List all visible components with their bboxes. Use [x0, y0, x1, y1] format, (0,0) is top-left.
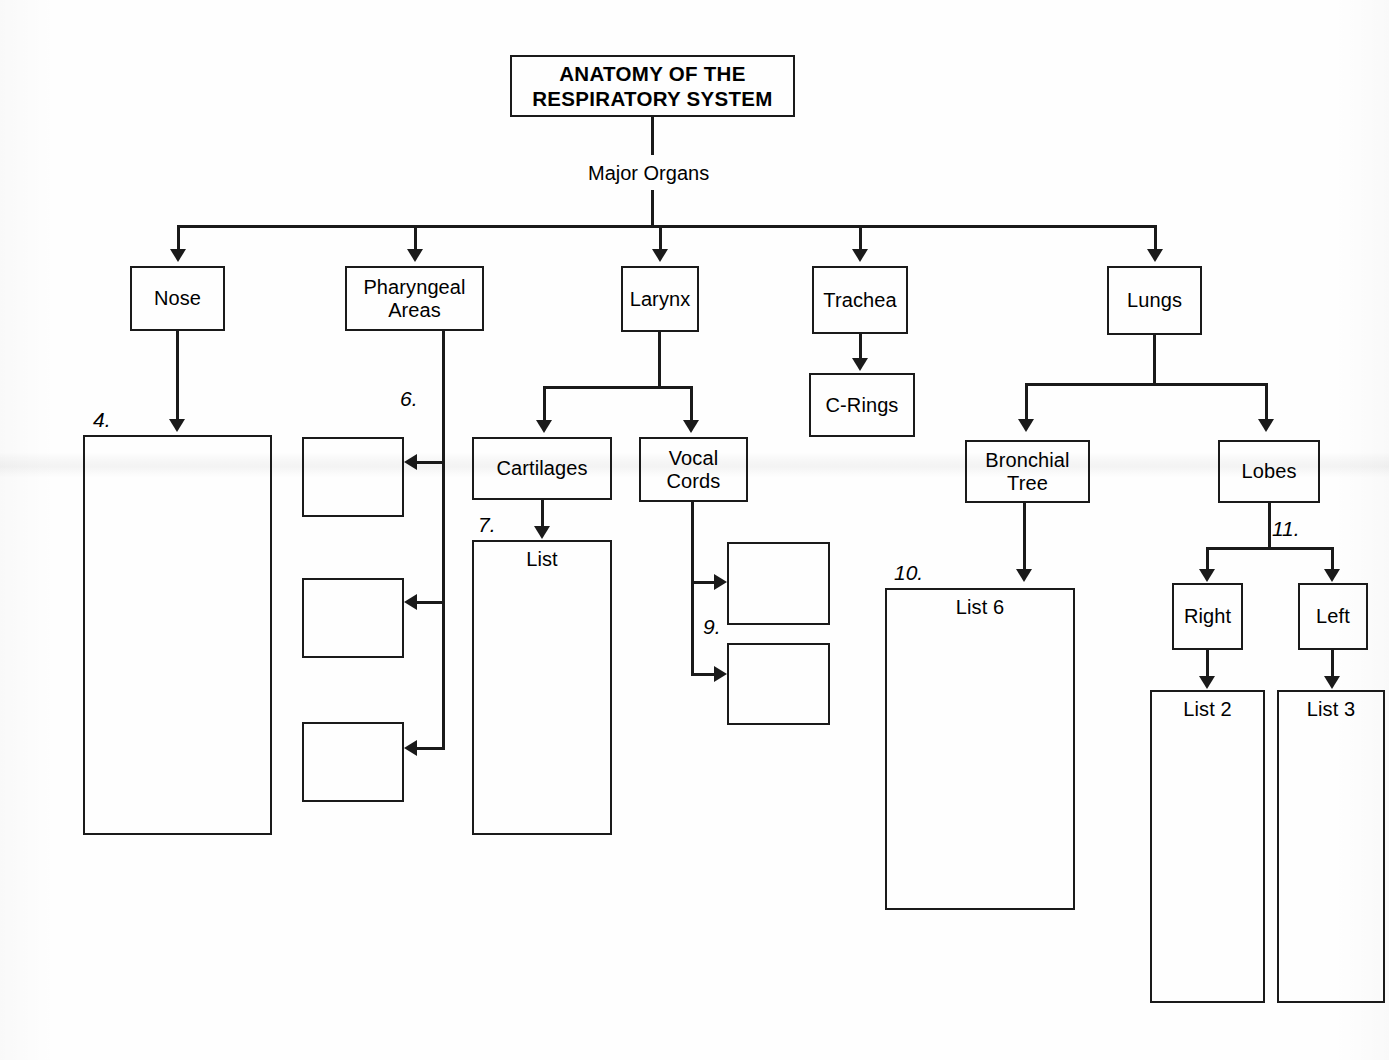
node-vocal-cords: Vocal Cords [639, 437, 748, 502]
answer-box-vocal-cord-2[interactable] [727, 643, 830, 725]
lobes-split-bus [1206, 547, 1334, 550]
arrow-to-larynx [652, 249, 668, 262]
node-lobes: Lobes [1218, 440, 1320, 503]
answer-box-left-lobe-list[interactable]: List 3 [1277, 690, 1385, 1003]
node-lungs: Lungs [1107, 266, 1202, 335]
drop-to-bronchial-tree [1025, 383, 1028, 421]
drop-to-lungs [1154, 225, 1157, 251]
callout-10: 10. [894, 561, 923, 585]
callout-4: 4. [93, 408, 111, 432]
drop-to-larynx [659, 225, 662, 251]
arrow-left-lobe-to-list [1324, 676, 1340, 689]
node-left-lobe: Left [1298, 583, 1368, 650]
node-cartilages-label: Cartilages [496, 457, 587, 479]
pharyngeal-vertical-bus [442, 331, 445, 750]
arrow-to-cartilages [536, 420, 552, 433]
drop-to-lobes [1265, 383, 1268, 421]
answer-box-bronchial-list[interactable]: List 6 [885, 588, 1075, 910]
node-larynx-label: Larynx [630, 288, 691, 310]
drop-to-right-lobe [1206, 547, 1209, 571]
answer-box-pharyngeal-1[interactable] [302, 437, 404, 517]
connector-bronchial-tree-to-list [1023, 503, 1026, 571]
answer-box-right-lobe-list[interactable]: List 2 [1150, 690, 1265, 1003]
connector-left-lobe-to-list [1331, 650, 1334, 678]
node-left-lobe-label: Left [1316, 605, 1350, 627]
title-box: ANATOMY OF THE RESPIRATORY SYSTEM [510, 55, 795, 117]
arrow-to-nose [170, 249, 186, 262]
node-cartilages: Cartilages [472, 437, 612, 500]
node-bronchial-tree-label-2: Tree [1007, 472, 1048, 494]
answer-box-pharyngeal-2[interactable] [302, 578, 404, 658]
arrow-trachea-to-c-rings [852, 358, 868, 371]
node-bronchial-tree: Bronchial Tree [965, 440, 1090, 503]
node-vocal-cords-label-1: Vocal [669, 447, 718, 469]
arrow-to-lungs [1147, 249, 1163, 262]
arrow-pharyngeal-to-blank-2 [404, 594, 417, 610]
answer-box-bronchial-list-label: List 6 [956, 596, 1004, 618]
callout-9: 9. [703, 615, 721, 639]
node-trachea-label: Trachea [823, 289, 896, 311]
lungs-split-bus [1025, 383, 1268, 386]
arrow-to-trachea [852, 249, 868, 262]
answer-box-cartilages-list-label: List [526, 548, 558, 570]
connector-major-organs-to-bus [651, 190, 654, 227]
arrow-to-bronchial-tree [1018, 419, 1034, 432]
connector-pharyngeal-to-blank-2 [416, 601, 443, 604]
answer-box-vocal-cord-1[interactable] [727, 542, 830, 625]
title-line-1: ANATOMY OF THE [559, 62, 745, 85]
callout-7: 7. [478, 513, 496, 537]
arrow-bronchial-tree-to-list [1016, 569, 1032, 582]
connector-pharyngeal-to-blank-3 [416, 747, 443, 750]
node-right-lobe: Right [1172, 583, 1243, 650]
node-trachea: Trachea [812, 266, 908, 334]
connector-lobes-down [1268, 503, 1271, 549]
node-c-rings: C-Rings [809, 373, 915, 437]
node-pharyngeal-areas-label-2: Areas [388, 299, 441, 321]
callout-11: 11. [1272, 517, 1300, 541]
arrow-nose-to-blank [169, 419, 185, 432]
node-lobes-label: Lobes [1242, 460, 1297, 482]
larynx-split-bus [543, 386, 693, 389]
node-nose-label: Nose [154, 287, 201, 309]
node-lungs-label: Lungs [1127, 289, 1182, 311]
node-pharyngeal-areas-label-1: Pharyngeal [363, 276, 465, 298]
node-larynx: Larynx [621, 266, 699, 332]
answer-box-pharyngeal-3[interactable] [302, 722, 404, 802]
arrow-to-left-lobe [1324, 569, 1340, 582]
arrow-to-vocal-cords [683, 420, 699, 433]
connector-lungs-down [1153, 335, 1156, 385]
arrow-pharyngeal-to-blank-3 [404, 740, 417, 756]
arrow-pharyngeal-to-blank-1 [404, 454, 417, 470]
node-bronchial-tree-label-1: Bronchial [985, 449, 1069, 471]
drop-to-cartilages [543, 386, 546, 422]
drop-to-nose [177, 225, 180, 251]
connector-cartilages-to-list [541, 500, 544, 528]
arrow-to-right-lobe [1199, 569, 1215, 582]
connector-right-lobe-to-list [1206, 650, 1209, 678]
connector-title-to-major-organs-upper [651, 117, 654, 155]
arrow-cartilages-to-list [534, 526, 550, 539]
title-line-2: RESPIRATORY SYSTEM [532, 87, 772, 110]
arrow-vocal-cords-to-blank-2 [714, 666, 727, 682]
answer-box-left-lobe-list-label: List 3 [1307, 698, 1355, 720]
connector-nose-to-blank [176, 331, 179, 421]
answer-box-nose-detail[interactable] [83, 435, 272, 835]
major-organs-label: Major Organs [588, 162, 709, 185]
node-right-lobe-label: Right [1184, 605, 1231, 627]
arrow-right-lobe-to-list [1199, 676, 1215, 689]
vocal-cords-vertical-bus [691, 502, 694, 676]
node-c-rings-label: C-Rings [826, 394, 899, 416]
major-organs-bus [177, 225, 1157, 228]
connector-trachea-to-c-rings [859, 334, 862, 360]
node-vocal-cords-label-2: Cords [667, 470, 721, 492]
drop-to-pharyngeal-areas [414, 225, 417, 251]
answer-box-cartilages-list[interactable]: List [472, 540, 612, 835]
drop-to-trachea [859, 225, 862, 251]
node-pharyngeal-areas: Pharyngeal Areas [345, 266, 484, 331]
connector-larynx-down [658, 332, 661, 388]
node-nose: Nose [130, 266, 225, 331]
callout-6: 6. [400, 387, 418, 411]
connector-pharyngeal-to-blank-1 [416, 461, 443, 464]
answer-box-right-lobe-list-label: List 2 [1183, 698, 1231, 720]
respiratory-system-flowchart: ANATOMY OF THE RESPIRATORY SYSTEM Major … [0, 0, 1389, 1060]
